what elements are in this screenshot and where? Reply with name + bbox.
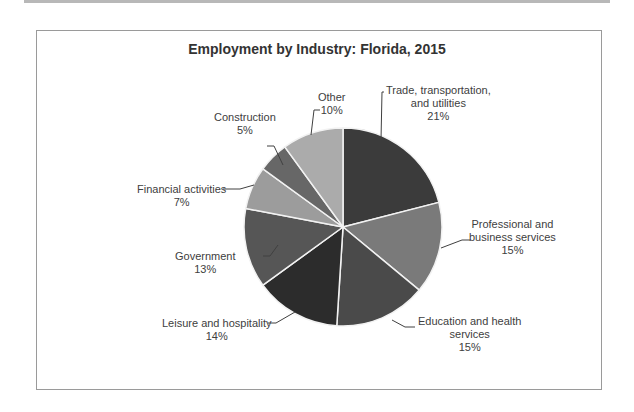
leader-professional [441,240,470,248]
label-other: Other 10% [318,91,346,117]
label-construction: Construction 5% [214,111,276,137]
leader-financial [223,185,254,189]
pie-slices [244,128,442,326]
leader-trade [381,92,384,140]
leader-education [392,320,415,327]
label-professional: Professional and business services 15% [469,218,556,257]
label-education: Education and health services 15% [418,315,521,354]
pie-chart [0,0,634,412]
label-leisure: Leisure and hospitality 14% [162,317,271,343]
label-financial: Financial activities 7% [137,183,226,209]
label-trade: Trade, transportation, and utilities 21% [386,84,491,123]
leader-leisure [268,312,295,323]
label-government: Government 13% [175,250,236,276]
